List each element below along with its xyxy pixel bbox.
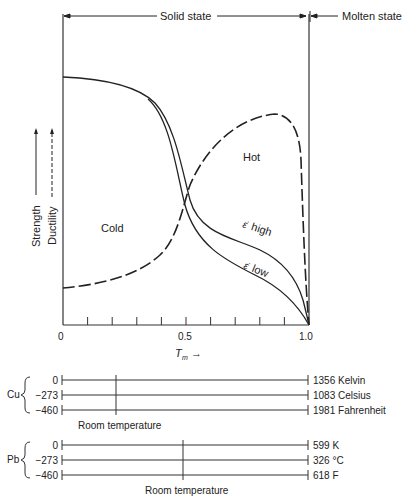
y-axis-labels: Strength Ductility	[30, 128, 58, 247]
cu-room-temp-label: Room temperature	[78, 420, 162, 431]
svg-text:−273: −273	[35, 390, 58, 401]
svg-text:ε̇: ε̇	[242, 260, 251, 272]
ductility-label: Ductility	[46, 206, 58, 245]
x-tick-0: 0	[58, 331, 64, 342]
svg-text:−273: −273	[35, 455, 58, 466]
x-axis-label: T m →	[175, 347, 202, 361]
svg-text:ε̇: ε̇	[241, 218, 250, 230]
cu-element-label: Cu	[7, 389, 20, 400]
pb-scale: Pb 0 −273 −460 599 K 326 °C 618 F Room t…	[7, 440, 344, 496]
svg-text:0: 0	[52, 440, 58, 451]
svg-text:low: low	[251, 262, 271, 279]
svg-text:1083 Celsius: 1083 Celsius	[313, 390, 371, 401]
pb-element-label: Pb	[7, 454, 20, 465]
cold-label: Cold	[101, 222, 124, 234]
svg-text:1356 Kelvin: 1356 Kelvin	[313, 375, 365, 386]
svg-text:−460: −460	[35, 405, 58, 416]
plot-axes	[63, 14, 309, 325]
molten-state-label: Molten state	[342, 10, 402, 22]
svg-text:0: 0	[52, 375, 58, 386]
x-tick-1.0: 1.0	[299, 331, 313, 342]
svg-text:high: high	[250, 220, 273, 238]
strain-high-label: ε̇ high	[241, 217, 273, 238]
pb-room-temp-label: Room temperature	[145, 485, 229, 496]
svg-text:618 F: 618 F	[313, 470, 339, 481]
strength-label: Strength	[30, 205, 42, 247]
strength-ductility-diagram: Solid state Molten state 0 0.5 1.0 T m →…	[0, 0, 405, 499]
cu-scale: Cu 0 −273 −460 1356 Kelvin 1083 Celsius …	[7, 375, 386, 431]
svg-text:1981 Fahrenheit: 1981 Fahrenheit	[313, 405, 386, 416]
svg-text:599 K: 599 K	[313, 440, 339, 451]
hot-label: Hot	[243, 151, 260, 163]
x-tick-0.5: 0.5	[178, 331, 192, 342]
x-ticks	[88, 317, 285, 325]
ductility-curve	[63, 114, 309, 325]
solid-state-label: Solid state	[160, 10, 211, 22]
svg-text:→: →	[191, 347, 202, 359]
svg-text:−460: −460	[35, 470, 58, 481]
svg-text:326 °C: 326 °C	[313, 455, 344, 466]
svg-text:m: m	[182, 354, 188, 361]
